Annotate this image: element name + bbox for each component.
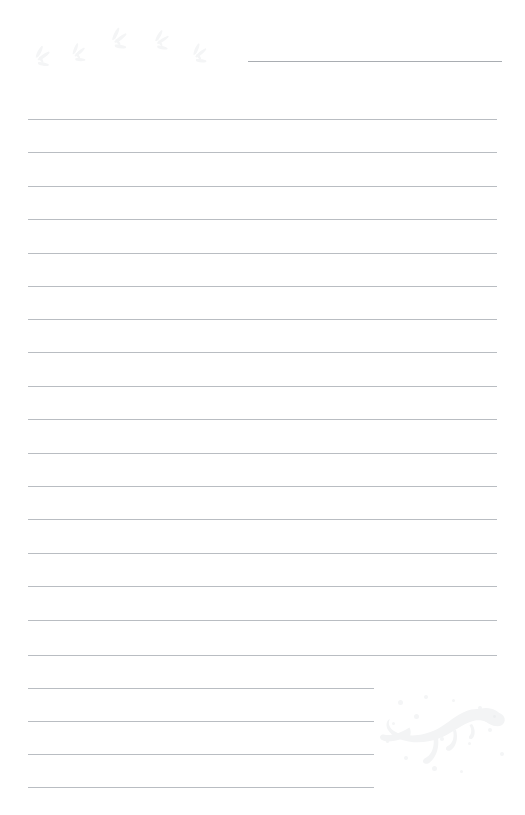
ruled-line [28, 319, 497, 320]
dinosaur-footprint-trail [28, 24, 233, 70]
ruled-line [28, 519, 497, 520]
speckle-dot [398, 700, 403, 705]
ruled-line [28, 419, 497, 420]
ruled-line [28, 352, 497, 353]
ruled-line [28, 486, 497, 487]
speckle-dot [386, 740, 389, 743]
speckle-dot [500, 752, 504, 756]
ruled-line [28, 655, 497, 656]
writing-paper-page [0, 0, 525, 815]
ruled-line [28, 586, 497, 587]
speckle-dot [452, 699, 455, 702]
ruled-line-short [28, 787, 374, 788]
ruled-line [28, 119, 497, 120]
ruled-line [28, 553, 497, 554]
ruled-line-short [28, 688, 374, 689]
speckle-dot [424, 695, 428, 699]
speckle-dot [460, 770, 463, 773]
ruled-line-short [28, 721, 374, 722]
ruled-line [28, 386, 497, 387]
speckle-dot [414, 714, 419, 719]
speckle-dot [478, 706, 482, 710]
speckle-dot [432, 766, 437, 771]
ruled-line [28, 186, 497, 187]
ruled-line [28, 219, 497, 220]
speckle-dot [440, 737, 444, 741]
speckle-dot [404, 756, 408, 760]
ruled-line-short [28, 754, 374, 755]
ruled-line [28, 253, 497, 254]
ruled-line [28, 620, 497, 621]
ruled-line [28, 286, 497, 287]
title-write-line [248, 61, 502, 62]
ruled-line [28, 152, 497, 153]
speckle-dot [468, 742, 471, 745]
ruled-line [28, 453, 497, 454]
speckle-dot [392, 722, 395, 725]
speckle-dot [488, 728, 492, 732]
